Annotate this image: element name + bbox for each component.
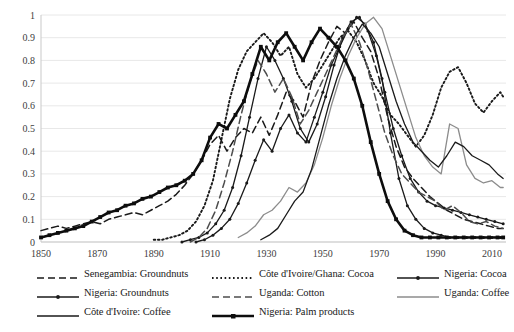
legend-swatch-icon: [211, 288, 255, 298]
legend-row: Côte d'Ivoire: CoffeeNigeria: Palm produ…: [0, 302, 514, 321]
legend-item[interactable]: Nigeria: Palm products: [211, 306, 396, 317]
y-axis-tick-labels: 00.10.20.30.40.50.60.70.80.91: [23, 10, 36, 248]
series-marker: [434, 204, 437, 207]
legend-item[interactable]: Uganda: Cotton: [211, 287, 396, 298]
legend-item-label: Côte d'Ivoire/Ghana: Cocoa: [259, 268, 374, 279]
series-marker: [262, 138, 265, 141]
series-marker: [191, 172, 195, 176]
series-marker: [307, 141, 310, 144]
x-axis-tick-labels: 185018701890191019301950197019902010: [31, 248, 502, 259]
legend-swatch-icon: [211, 307, 255, 317]
legend-row: Senegambia: GroundnutsCôte d'Ivoire/Ghan…: [0, 264, 514, 283]
y-axis-tick-label: 0.9: [23, 32, 36, 43]
series-marker: [493, 220, 496, 223]
series-marker: [485, 218, 488, 221]
series-marker: [228, 218, 231, 221]
series-marker: [296, 132, 299, 135]
series-marker: [223, 209, 226, 212]
x-axis-tick-label: 1870: [87, 248, 107, 259]
chart-legend: Senegambia: GroundnutsCôte d'Ivoire/Ghan…: [0, 264, 514, 330]
legend-swatch-icon: [36, 307, 80, 317]
series-marker: [381, 77, 384, 80]
legend-item-label: Uganda: Coffee: [444, 287, 509, 298]
series-marker: [288, 113, 291, 116]
series-marker: [265, 45, 268, 48]
series-marker: [231, 186, 234, 189]
series-marker: [242, 99, 246, 103]
series-marker: [220, 227, 223, 230]
legend-item-label: Uganda: Cotton: [259, 287, 324, 298]
series-marker: [273, 59, 276, 62]
legend-swatch-icon: [36, 269, 80, 279]
series-marker: [284, 31, 288, 35]
series-marker: [414, 218, 417, 221]
legend-item-label: Nigeria: Palm products: [259, 306, 354, 317]
series-marker: [183, 179, 187, 183]
y-axis-tick-label: 0.6: [23, 100, 36, 111]
series-marker: [445, 236, 449, 240]
y-axis-tick-label: 0.7: [23, 78, 36, 89]
legend-item-label: Côte d'Ivoire: Coffee: [84, 306, 171, 317]
series-marker: [453, 236, 457, 240]
series-marker: [257, 77, 260, 80]
series-line: [190, 24, 503, 242]
legend-item[interactable]: Uganda: Coffee: [396, 287, 509, 298]
series-marker: [166, 186, 170, 190]
series-marker: [426, 200, 429, 203]
legend-item[interactable]: Nigeria: Groundnuts: [36, 287, 211, 298]
legend-item[interactable]: Côte d'Ivoire/Ghana: Cocoa: [211, 268, 396, 279]
series-marker: [217, 122, 221, 126]
y-axis-tick-label: 0.2: [23, 191, 36, 202]
x-axis-tick-label: 1950: [313, 248, 333, 259]
chart-plot-area: 00.10.20.30.40.50.60.70.80.91 1850187018…: [0, 0, 514, 262]
series-marker: [271, 150, 274, 153]
series-marker: [174, 183, 178, 187]
series-marker: [392, 127, 395, 130]
series-marker: [451, 209, 454, 212]
series-marker: [107, 211, 111, 215]
legend-swatch-icon: [211, 269, 255, 279]
series-marker: [502, 222, 505, 225]
data-series: [39, 27, 505, 240]
series-marker: [496, 236, 500, 240]
x-axis-tick-label: 1910: [200, 248, 220, 259]
series-marker: [267, 59, 271, 63]
series-marker: [476, 216, 479, 219]
series-marker: [240, 154, 243, 157]
series-marker: [355, 16, 358, 19]
series-marker: [299, 127, 302, 130]
x-axis-tick-label: 1890: [144, 248, 164, 259]
legend-item[interactable]: Côte d'Ivoire: Coffee: [36, 306, 211, 317]
legend-swatch-icon: [396, 288, 440, 298]
series-marker: [406, 204, 409, 207]
series-marker: [304, 141, 307, 144]
series-marker: [64, 229, 68, 233]
data-series: [190, 24, 503, 242]
series-marker: [313, 116, 316, 119]
series-marker: [279, 127, 282, 130]
legend-item[interactable]: Nigeria: Cocoa: [396, 268, 506, 279]
y-axis-tick-label: 0.1: [23, 214, 36, 225]
series-marker: [487, 236, 491, 240]
series-marker: [132, 202, 136, 206]
series-marker: [141, 197, 145, 201]
series-marker: [360, 104, 364, 108]
x-axis-tick-label: 1930: [256, 248, 276, 259]
series-marker: [431, 231, 434, 234]
series-marker: [411, 233, 415, 237]
series-marker: [73, 226, 77, 230]
series-marker: [333, 63, 336, 66]
series-marker: [420, 236, 424, 240]
series-marker: [214, 222, 217, 225]
series-marker: [372, 41, 375, 44]
series-marker: [259, 45, 263, 49]
series-marker: [203, 238, 206, 241]
legend-item[interactable]: Senegambia: Groundnuts: [36, 268, 211, 279]
series-marker: [501, 236, 505, 240]
series-marker: [394, 217, 398, 221]
series-marker: [423, 227, 426, 230]
series-marker: [56, 231, 60, 235]
data-series-group: [39, 16, 505, 244]
legend-item-label: Nigeria: Cocoa: [444, 268, 506, 279]
series-marker: [428, 236, 432, 240]
